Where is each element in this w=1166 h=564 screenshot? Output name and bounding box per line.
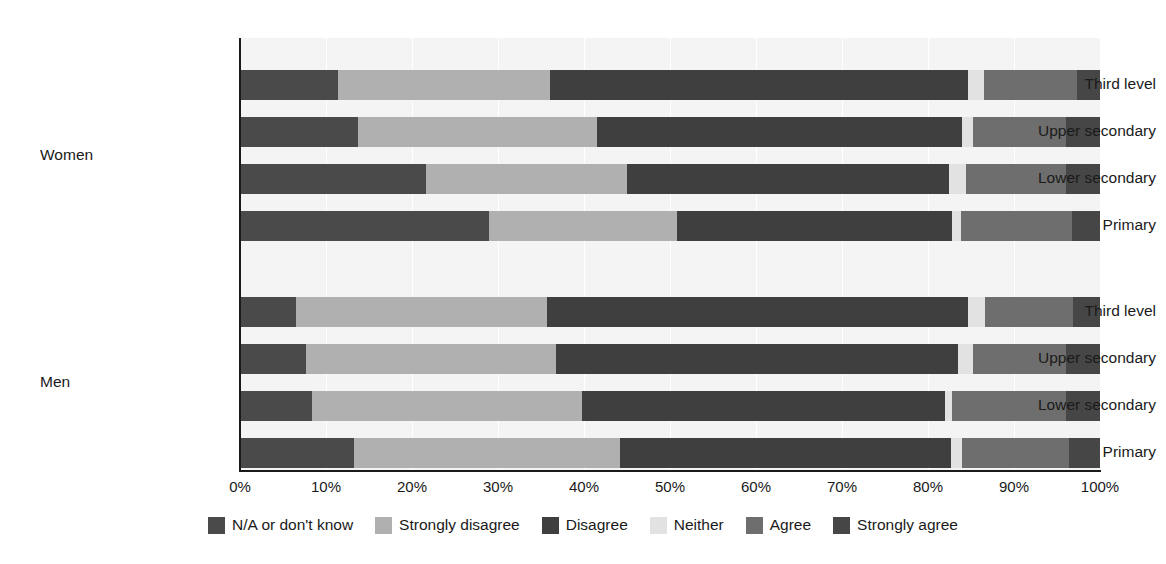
bar-segment [426,164,627,194]
legend-item[interactable]: Strongly disagree [375,516,520,534]
bar-segment [240,344,306,374]
legend-label: N/A or don't know [232,516,353,534]
bar-segment [240,164,426,194]
bar-segment [582,391,945,421]
bar-segment [240,70,338,100]
category-label: Third level [936,302,1166,320]
category-label: Primary [936,443,1166,461]
x-tick-label: 90% [984,478,1044,495]
category-label: Lower secondary [936,169,1166,187]
bar-segment [338,70,550,100]
x-tick-label: 40% [554,478,614,495]
category-label: Primary [936,216,1166,234]
bar-segment [620,438,951,468]
bar-segment [240,297,296,327]
bar-segment [550,70,968,100]
legend-item[interactable]: Strongly agree [833,516,958,534]
x-tick-label: 20% [382,478,442,495]
bar-segment [358,117,597,147]
legend-label: Strongly agree [857,516,958,534]
bar-segment [597,117,963,147]
x-tick-label: 80% [898,478,958,495]
category-label: Upper secondary [936,122,1166,140]
bar-segment [354,438,621,468]
bar-segment [240,117,358,147]
category-label: Lower secondary [936,396,1166,414]
group-label: Women [40,146,132,164]
x-tick-label: 30% [468,478,528,495]
bar-segment [627,164,949,194]
legend-swatch-icon [746,517,763,534]
legend-item[interactable]: Agree [746,516,811,534]
legend-item[interactable]: N/A or don't know [208,516,353,534]
category-label: Upper secondary [936,349,1166,367]
legend-label: Strongly disagree [399,516,520,534]
legend-swatch-icon [375,517,392,534]
bar-segment [312,391,582,421]
legend-label: Disagree [566,516,628,534]
legend-swatch-icon [833,517,850,534]
bar-segment [556,344,958,374]
bar-segment [306,344,556,374]
legend-item[interactable]: Neither [650,516,724,534]
x-tick-label: 100% [1070,478,1130,495]
bar-segment [489,211,676,241]
bar-segment [240,438,354,468]
bar-segment [677,211,952,241]
bar-segment [296,297,547,327]
legend-item[interactable]: Disagree [542,516,628,534]
chart-legend: N/A or don't knowStrongly disagreeDisagr… [0,516,1166,534]
category-label: Third level [936,75,1166,93]
x-tick-label: 10% [296,478,356,495]
legend-swatch-icon [208,517,225,534]
x-axis-line [239,470,1101,472]
x-tick-label: 50% [640,478,700,495]
x-tick-label: 60% [726,478,786,495]
group-label: Men [40,373,132,391]
legend-label: Neither [674,516,724,534]
legend-swatch-icon [650,517,667,534]
bar-segment [547,297,968,327]
bar-segment [240,211,489,241]
stacked-bar-chart: Third levelUpper secondaryLower secondar… [0,0,1166,564]
y-axis-line [239,38,241,472]
x-tick-label: 70% [812,478,872,495]
legend-swatch-icon [542,517,559,534]
x-tick-label: 0% [210,478,270,495]
legend-label: Agree [770,516,811,534]
bar-segment [240,391,312,421]
